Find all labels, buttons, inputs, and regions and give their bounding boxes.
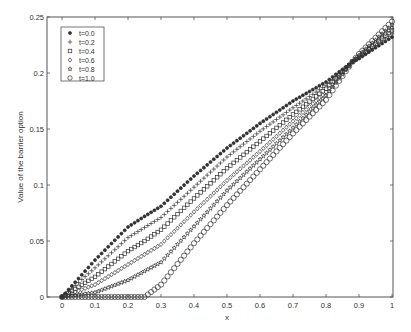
legend-entry: t=0.8 — [79, 66, 95, 73]
x-axis-label: x — [225, 313, 229, 322]
y-tick-label: 0.15 — [29, 125, 44, 134]
y-tick-label: 0.1 — [34, 181, 44, 190]
x-tick-label: 0.9 — [354, 301, 364, 310]
x-tick-label: 0.1 — [90, 301, 100, 310]
legend-entry: t=0.6 — [79, 57, 95, 64]
y-tick-label: 0.05 — [29, 237, 44, 246]
y-tick-label: 0 — [40, 293, 44, 302]
legend-entry: t=0.4 — [79, 48, 95, 55]
x-tick-label: 0.2 — [123, 301, 133, 310]
legend-entry: t=0.0 — [79, 30, 95, 37]
y-axis-label: Value of the barrier option — [16, 111, 25, 202]
legend-entry: t=0.2 — [79, 39, 95, 46]
x-tick-label: 0.6 — [255, 301, 265, 310]
legend: t=0.0t=0.2t=0.4t=0.6t=0.8t=1.0 — [61, 27, 104, 82]
y-tick-label: 0.2 — [34, 69, 44, 78]
x-tick-label: 0.3 — [156, 301, 166, 310]
legend-entry: t=1.0 — [79, 75, 95, 82]
barrier-option-chart: 00.10.20.30.40.50.60.70.80.91 00.050.10.… — [0, 0, 411, 332]
x-tick-label: 0.7 — [288, 301, 298, 310]
x-tick-label: 0.5 — [222, 301, 232, 310]
x-tick-label: 0.4 — [189, 301, 199, 310]
x-tick-label: 0 — [60, 301, 64, 310]
x-tick-label: 0.8 — [321, 301, 331, 310]
x-tick-label: 1 — [390, 301, 394, 310]
y-tick-label: 0.25 — [29, 13, 44, 22]
